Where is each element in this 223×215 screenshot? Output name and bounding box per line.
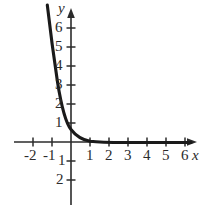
x-tick-label-2: 2 [105, 148, 113, 163]
x-tick-label-3: 3 [124, 148, 132, 163]
x-tick-label-1: 1 [86, 148, 94, 163]
x-tick-label-6: 6 [181, 148, 189, 163]
y-tick-label-3: 3 [55, 77, 63, 92]
x-tick-label-5: 5 [162, 148, 170, 163]
x-tick-label-neg-1: -1 [43, 148, 56, 163]
y-axis-arrowhead [67, 8, 75, 18]
y-tick-label-2: 2 [55, 96, 63, 111]
y-tick-label-5: 5 [55, 39, 63, 54]
exponential-decay-curve [47, 5, 191, 143]
y-axis-label: y [58, 1, 65, 16]
y-tick-label-4: 4 [55, 58, 63, 73]
x-tick-label-neg-2: -2 [24, 148, 37, 163]
coordinate-plane-svg [0, 0, 223, 215]
y-tick-label-6: 6 [55, 20, 63, 35]
x-tick-label-4: 4 [143, 148, 151, 163]
y-tick-label-neg-2: 2 [56, 172, 64, 187]
x-axis-label: x [192, 148, 199, 163]
graph-figure: y x 6 5 4 3 2 1 1 2 -2 -1 1 2 3 4 5 6 [0, 0, 223, 215]
y-tick-label-1: 1 [55, 115, 63, 130]
y-tick-label-neg-1: 1 [58, 153, 66, 168]
